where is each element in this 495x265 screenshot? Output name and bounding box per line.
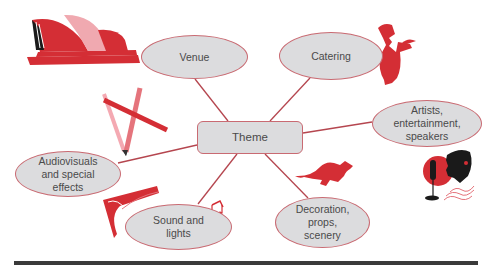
connector-venue <box>195 79 228 121</box>
node-catering: Catering <box>279 32 383 80</box>
node-artists-label: Artists, entertainment, speakers <box>393 104 460 143</box>
connector-catering <box>270 78 310 121</box>
node-decoration-label: Decoration, props, scenery <box>296 203 350 242</box>
chef-icon <box>378 24 416 85</box>
node-venue: Venue <box>141 35 248 79</box>
node-sound-label: Sound and lights <box>153 214 204 240</box>
pencils-icon <box>104 88 167 156</box>
node-theme-label: Theme <box>232 131 268 144</box>
node-catering-label: Catering <box>311 50 351 63</box>
node-sound: Sound and lights <box>125 204 232 250</box>
node-audiovisuals: Audiovisuals and special effects <box>15 151 121 197</box>
node-decoration: Decoration, props, scenery <box>275 197 370 248</box>
node-audiovisuals-label: Audiovisuals and special effects <box>39 155 98 194</box>
connector-audiovisuals <box>118 145 197 163</box>
bottom-rule <box>14 261 478 265</box>
connector-sound <box>198 154 237 204</box>
node-venue-label: Venue <box>180 51 210 64</box>
mind-map-diagram: Venue Catering Artists, entertainment, s… <box>0 0 495 265</box>
singer-microphone-icon <box>423 150 474 200</box>
node-artists: Artists, entertainment, speakers <box>372 100 482 147</box>
kangaroo-icon <box>295 161 353 186</box>
connector-artists <box>303 122 372 133</box>
node-theme: Theme <box>197 121 303 154</box>
opera-house-icon <box>27 15 140 65</box>
